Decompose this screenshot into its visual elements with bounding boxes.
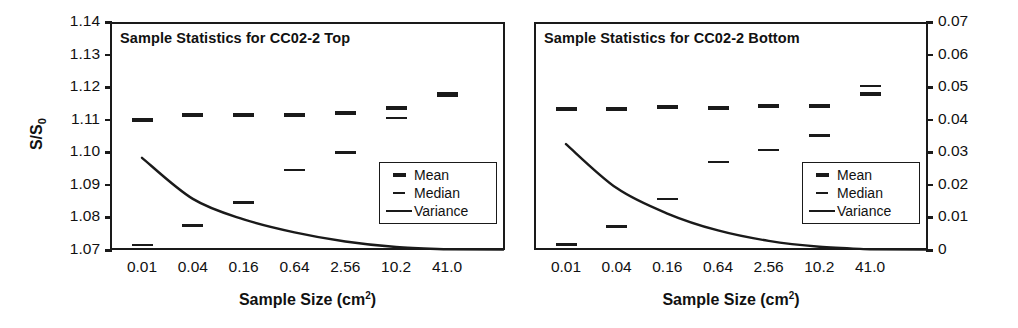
legend-swatch — [816, 173, 829, 177]
mean-marker — [758, 104, 779, 108]
mean-marker — [708, 106, 729, 110]
legend-item-label: Median — [837, 185, 883, 201]
legend-swatch — [809, 210, 835, 213]
figure-root: Sample Statistics for CC02-2 Top S/S0 1.… — [0, 0, 1018, 328]
median-marker — [809, 134, 830, 137]
legend-item[interactable]: Median — [807, 184, 913, 202]
median-dash-key-icon — [807, 192, 837, 194]
legend-item-label: Variance — [837, 203, 891, 219]
legend-item[interactable]: Variance — [807, 202, 913, 220]
x-axis-title-text: Sample Size (cm — [662, 291, 788, 308]
mean-dash-key-icon — [807, 173, 837, 177]
legend-swatch — [816, 192, 828, 194]
median-marker — [606, 225, 627, 228]
median-marker — [708, 161, 729, 164]
x-axis-title-right: Sample Size (cm2) — [514, 290, 948, 309]
mean-marker — [657, 105, 678, 109]
x-axis-title-close: ) — [794, 291, 799, 308]
median-marker — [758, 149, 779, 152]
legend-item-label: Mean — [837, 167, 872, 183]
legend-right: MeanMedianVariance — [802, 162, 920, 224]
median-marker — [860, 85, 881, 88]
mean-marker — [860, 92, 881, 96]
legend-item[interactable]: Mean — [807, 166, 913, 184]
median-marker — [556, 243, 577, 246]
mean-marker — [809, 104, 830, 108]
mean-marker — [606, 107, 627, 111]
variance-line-key-icon — [807, 210, 837, 213]
mean-marker — [556, 107, 577, 111]
median-marker — [657, 198, 678, 201]
